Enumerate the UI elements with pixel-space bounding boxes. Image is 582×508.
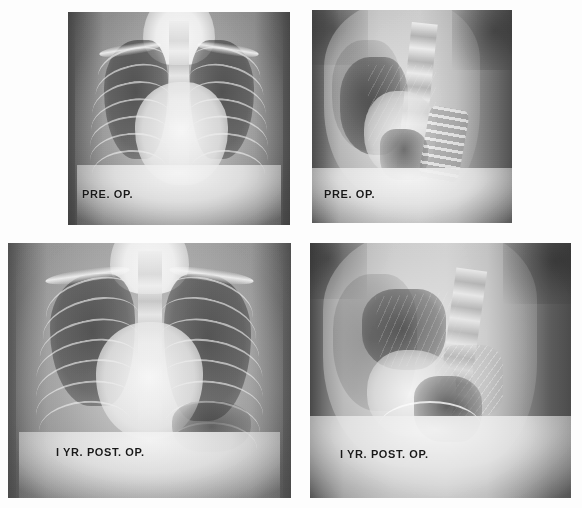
radiograph-figure: PRE. OP. PRE. OP. (0, 0, 582, 508)
radiograph-panel-preop-frontal: PRE. OP. (68, 12, 290, 225)
diaphragm-abdomen (19, 432, 279, 498)
radiograph-panel-postop-lateral: I YR. POST. OP. (310, 243, 571, 498)
panel-label-postop-lateral: I YR. POST. OP. (340, 448, 429, 460)
radiograph-panel-preop-lateral: PRE. OP. (312, 10, 512, 223)
radiograph-panel-postop-frontal: I YR. POST. OP. (8, 243, 291, 498)
panel-label-postop-frontal: I YR. POST. OP. (56, 446, 145, 458)
panel-label-preop-frontal: PRE. OP. (82, 188, 133, 200)
panel-label-preop-lateral: PRE. OP. (324, 188, 375, 200)
